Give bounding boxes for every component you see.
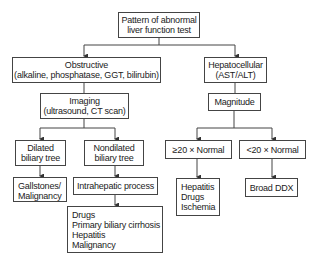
node-gallstones-malignancy: Gallstones/ Malignancy	[13, 177, 67, 202]
node-broad-ddx: Broad DDX	[245, 178, 298, 197]
node-label: Dilated	[27, 143, 54, 153]
node-hepatocellular: Hepatocellular (AST/ALT)	[204, 57, 267, 83]
node-label: (ultrasound, CT scan)	[43, 106, 125, 116]
node-label: Gallstones/	[18, 181, 61, 191]
node-magnitude: Magnitude	[208, 93, 261, 111]
node-nondilated-biliary-tree: Nondilated biliary tree	[84, 140, 144, 166]
node-ge20-normal: ≥20 × Normal	[165, 140, 232, 159]
node-intrahepatic-causes: Drugs Primary biliary cirrhosis Hepatiti…	[67, 206, 163, 253]
node-hepatocellular-causes: Hepatitis Drugs Ischemia	[176, 178, 220, 216]
node-label: liver function test	[127, 25, 191, 35]
node-label: Obstructive	[65, 60, 108, 70]
node-label: Intrahepatic process	[77, 181, 154, 191]
node-label: Broad DDX	[250, 183, 294, 193]
node-label: (AST/ALT)	[215, 70, 255, 80]
node-label: Hepatitis	[72, 230, 105, 240]
node-label: Pattern of abnormal	[121, 15, 196, 25]
node-label: Imaging	[69, 96, 100, 106]
node-lt20-normal: <20 × Normal	[239, 140, 306, 159]
node-label: Hepatocellular	[208, 60, 263, 70]
node-label: Drugs	[181, 192, 204, 202]
node-label: biliary tree	[94, 153, 133, 163]
node-label: Malignancy	[18, 191, 62, 201]
node-label: Ischemia	[181, 202, 215, 212]
node-dilated-biliary-tree: Dilated biliary tree	[15, 140, 66, 166]
node-label: Magnitude	[214, 97, 254, 107]
node-label: Primary biliary cirrhosis	[72, 220, 160, 230]
node-label: Drugs	[72, 210, 95, 220]
node-imaging: Imaging (ultrasound, CT scan)	[40, 93, 129, 119]
node-label: biliary tree	[21, 153, 60, 163]
node-label: ≥20 × Normal	[173, 145, 225, 155]
node-label: Hepatitis	[181, 182, 214, 192]
node-obstructive: Obstructive (alkaline, phosphatase, GGT,…	[12, 57, 161, 83]
node-label: Nondilated	[93, 143, 134, 153]
node-label: Malignancy	[72, 240, 116, 250]
node-abnormal-lft-pattern: Pattern of abnormal liver function test	[118, 12, 200, 38]
node-label: <20 × Normal	[246, 145, 298, 155]
node-label: (alkaline, phosphatase, GGT, bilirubin)	[14, 70, 159, 80]
node-intrahepatic-process: Intrahepatic process	[73, 177, 158, 195]
